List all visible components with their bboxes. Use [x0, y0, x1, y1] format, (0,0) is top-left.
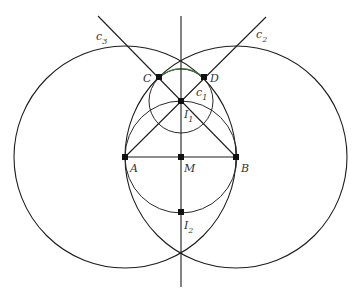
point-b [233, 154, 239, 160]
point-i1 [178, 98, 184, 104]
label-b: B [240, 162, 249, 175]
geometry-diagram: c3 c2 c1 I1 I2 C D A M B [0, 0, 356, 292]
point-c [156, 74, 162, 80]
label-m: M [183, 162, 196, 175]
label-i1: I1 [183, 108, 193, 124]
label-d: D [209, 72, 219, 85]
label-c1: c1 [196, 86, 207, 102]
point-a [122, 154, 128, 160]
label-c: C [143, 72, 152, 85]
label-c2: c2 [256, 28, 267, 44]
label-i2: I2 [183, 219, 193, 235]
point-m [178, 154, 184, 160]
line-c3 [98, 16, 236, 157]
label-c3: c3 [96, 30, 107, 46]
label-a: A [129, 162, 138, 175]
point-d [201, 74, 207, 80]
point-i2 [178, 209, 184, 215]
